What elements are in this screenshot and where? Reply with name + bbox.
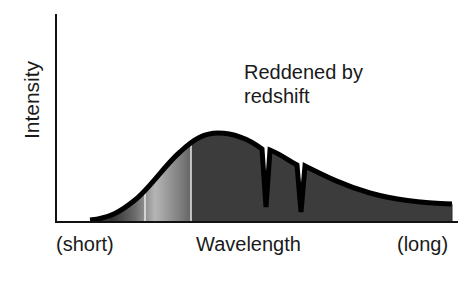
annotation-line-2: redshift	[244, 84, 363, 108]
annotation: Reddened by redshift	[244, 60, 363, 108]
annotation-line-1: Reddened by	[244, 60, 363, 84]
y-axis-label: Intensity	[20, 60, 44, 140]
x-tick-short: (short)	[56, 233, 114, 256]
x-tick-long: (long)	[397, 233, 448, 256]
x-axis-label: Wavelength	[196, 233, 301, 256]
